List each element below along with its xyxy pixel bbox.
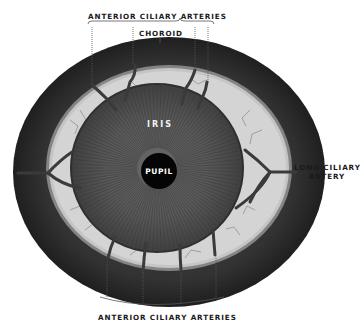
label-long-ciliary-line2: ARTERY xyxy=(294,172,360,181)
label-pupil: PUPIL xyxy=(141,167,177,176)
label-long-ciliary-artery: LONG CILIARY ARTERY xyxy=(294,163,360,181)
label-iris: IRIS xyxy=(140,120,180,129)
label-choroid: CHOROID xyxy=(138,29,184,38)
label-long-ciliary-line1: LONG CILIARY xyxy=(294,163,360,172)
label-anterior-ciliary-arteries-bottom: ANTERIOR CILIARY ARTERIES xyxy=(98,313,228,322)
label-anterior-ciliary-arteries-top: ANTERIOR CILIARY ARTERIES xyxy=(88,12,218,21)
